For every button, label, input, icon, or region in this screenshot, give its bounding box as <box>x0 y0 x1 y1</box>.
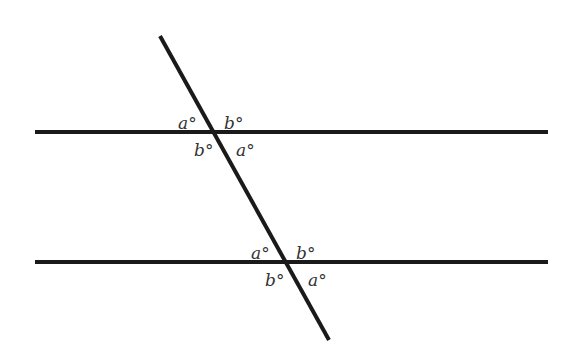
angle-label-top-lower-left: b° <box>194 140 213 160</box>
angle-label-bottom-lower-right: a° <box>308 270 327 290</box>
angle-label-top-lower-right: a° <box>236 140 255 160</box>
angle-label-top-upper-left: a° <box>178 113 197 133</box>
transversal-line <box>160 36 329 340</box>
angle-label-bottom-upper-right: b° <box>296 243 315 263</box>
angle-label-bottom-upper-left: a° <box>251 243 270 263</box>
angle-label-top-upper-right: b° <box>224 113 243 133</box>
angle-label-bottom-lower-left: b° <box>265 270 284 290</box>
diagram-svg: a° b° b° a° a° b° b° a° <box>0 0 574 357</box>
parallel-lines-diagram: a° b° b° a° a° b° b° a° <box>0 0 574 357</box>
